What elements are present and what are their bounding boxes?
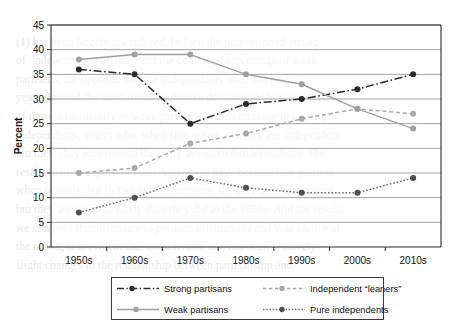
data-point xyxy=(187,52,193,58)
data-point xyxy=(132,52,138,58)
data-point xyxy=(76,170,82,176)
y-axis-tick-label: 5 xyxy=(38,217,44,228)
data-point xyxy=(299,116,305,122)
x-axis-tick-label: 1960s xyxy=(121,255,148,266)
x-axis-tick-label: 1950s xyxy=(65,255,92,266)
y-axis-tick-label: 35 xyxy=(33,69,45,80)
legend-item-strong-partisans: Strong partisans xyxy=(114,279,260,299)
legend-swatch-pure-independents xyxy=(263,304,305,315)
y-axis-tick-label: 30 xyxy=(33,94,45,105)
chart-legend: Strong partisans Independent “leaners” W… xyxy=(111,277,384,320)
data-point xyxy=(410,71,416,77)
x-axis-tick-label: 1990s xyxy=(288,255,315,266)
data-point xyxy=(410,175,416,181)
y-axis-tick-label: 25 xyxy=(33,118,45,129)
x-axis-tick-label: 2000s xyxy=(344,255,371,266)
data-point xyxy=(243,185,249,191)
data-point xyxy=(187,175,193,181)
legend-label-strong-partisans: Strong partisans xyxy=(164,284,232,294)
data-point xyxy=(299,190,305,196)
data-point xyxy=(354,106,360,112)
y-axis-tick-label: 45 xyxy=(33,20,45,31)
data-point xyxy=(76,57,82,63)
chart-figure: 0510152025303540451950s1960s1970s1980s19… xyxy=(0,0,463,333)
data-point xyxy=(299,81,305,87)
data-point xyxy=(243,131,249,137)
y-axis-tick-label: 15 xyxy=(33,168,45,179)
data-point xyxy=(76,209,82,215)
y-axis-title: Percent xyxy=(13,117,24,154)
x-axis-tick-label: 2010s xyxy=(400,255,427,266)
legend-item-independent-leaners: Independent “leaners” xyxy=(260,279,387,299)
legend-label-independent-leaners: Independent “leaners” xyxy=(310,284,401,294)
legend-swatch-strong-partisans xyxy=(117,283,159,294)
data-point xyxy=(354,86,360,92)
data-point xyxy=(410,111,416,117)
y-axis-tick-label: 20 xyxy=(33,143,45,154)
data-point xyxy=(299,96,305,102)
data-point xyxy=(76,66,82,72)
x-axis-tick-label: 1980s xyxy=(232,255,259,266)
legend-swatch-weak-partisans xyxy=(117,304,159,315)
data-point xyxy=(243,101,249,107)
legend-item-weak-partisans: Weak partisans xyxy=(114,300,260,320)
data-point xyxy=(243,71,249,77)
data-point xyxy=(410,126,416,132)
data-point xyxy=(132,71,138,77)
data-point xyxy=(187,121,193,127)
data-point xyxy=(187,140,193,146)
y-axis-tick-label: 0 xyxy=(38,242,44,253)
legend-swatch-independent-leaners xyxy=(263,283,305,294)
legend-label-pure-independents: Pure independents xyxy=(310,305,388,315)
legend-label-weak-partisans: Weak partisans xyxy=(164,305,228,315)
data-point xyxy=(132,165,138,171)
x-axis-tick-label: 1970s xyxy=(177,255,204,266)
data-point xyxy=(354,190,360,196)
y-axis-tick-label: 10 xyxy=(33,192,45,203)
data-point xyxy=(132,195,138,201)
y-axis-tick-label: 40 xyxy=(33,44,45,55)
legend-item-pure-independents: Pure independents xyxy=(260,300,387,320)
